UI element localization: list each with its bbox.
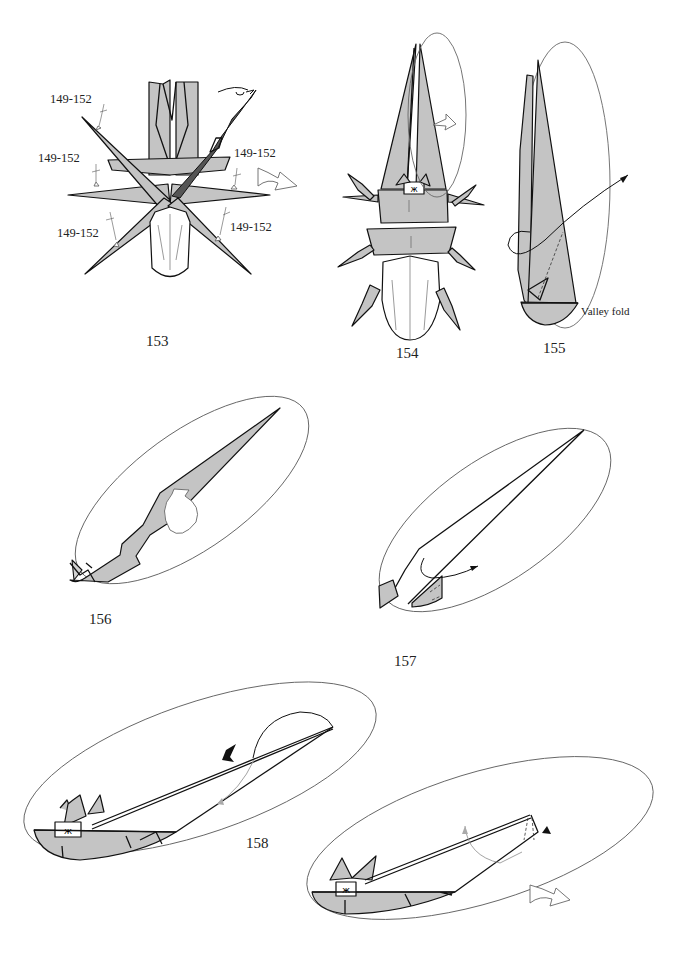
step-154-diagram: ж: [338, 33, 484, 340]
diagram-canvas: ж: [0, 0, 684, 954]
step-number-156: 156: [89, 611, 112, 628]
step-153-label-mid-left: 149-152: [38, 151, 80, 166]
step-153-label-bottom-left: 149-152: [57, 226, 99, 241]
step-158-right-diagram: ж: [289, 723, 671, 953]
step-number-158: 158: [246, 835, 269, 852]
step-153-label-mid-right: 149-152: [234, 146, 276, 161]
step-153-label-top-left: 149-152: [50, 92, 92, 107]
step-153-diagram: [68, 80, 297, 277]
step-number-154: 154: [396, 345, 419, 362]
svg-text:ж: ж: [342, 885, 350, 895]
step-number-155: 155: [543, 340, 566, 357]
instruction-page: ж: [0, 0, 684, 954]
step-number-157: 157: [394, 653, 417, 670]
step-156-diagram: [46, 362, 337, 618]
step-number-153: 153: [146, 333, 169, 350]
step-157-diagram: [350, 393, 640, 646]
step-155-diagram: [508, 42, 628, 328]
step-158-left-diagram: ж: [4, 646, 396, 889]
step-155-valley-fold-label: Valley fold: [581, 305, 630, 317]
svg-text:ж: ж: [410, 185, 417, 194]
step-153-label-bottom-right: 149-152: [230, 220, 272, 235]
